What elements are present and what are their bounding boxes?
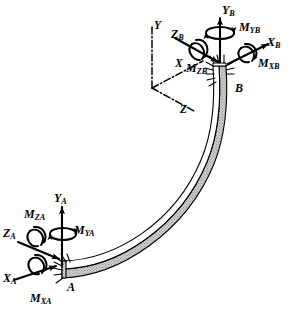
moment-curl-za <box>28 227 46 246</box>
force-label-ya: YA <box>54 192 67 206</box>
global-axis-label-x: X <box>175 58 183 70</box>
figure-canvas: Y X Z YB ZB XB MYB MZB MXB B YA ZA XA MY… <box>0 0 289 310</box>
moment-label-za: MZA <box>24 208 45 222</box>
moment-label-yb: MYB <box>239 21 260 35</box>
beam-top-face <box>62 66 220 269</box>
force-label-xb: XB <box>267 36 280 50</box>
node-label-a: A <box>67 281 75 293</box>
curved-beam <box>62 63 227 278</box>
global-axis-z <box>152 88 194 111</box>
global-axis-label-z: Z <box>180 104 187 116</box>
moment-curl-zb <box>190 40 208 60</box>
force-arrow-xa <box>14 266 56 280</box>
moment-label-ya: MYA <box>74 224 95 238</box>
force-label-za: ZA <box>3 227 16 241</box>
moment-label-zb: MZB <box>186 62 207 76</box>
moment-label-xb: MXB <box>258 57 280 71</box>
moment-label-xa: MXA <box>30 292 52 306</box>
force-arrow-za <box>18 242 59 259</box>
global-axis-label-y: Y <box>154 20 161 32</box>
force-label-zb: ZB <box>171 28 184 42</box>
force-label-xa: XA <box>3 272 16 286</box>
force-label-yb: YB <box>222 4 235 18</box>
diagram-svg <box>0 0 289 310</box>
node-label-b: B <box>235 82 243 94</box>
